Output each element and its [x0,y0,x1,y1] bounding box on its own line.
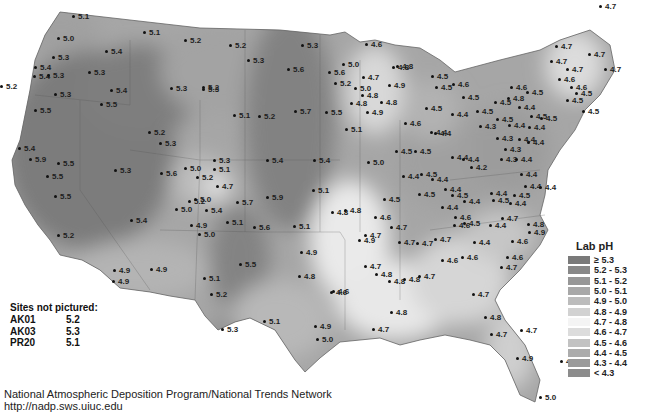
legend-swatch [568,359,590,367]
legend-label: 4.4 - 4.5 [594,348,627,358]
site-marker: 4.4 [434,130,451,138]
site-dot-icon [527,141,530,144]
site-dot-icon [365,43,368,46]
site-dot-icon [54,195,57,198]
site-ph-value: 4.6 [517,237,528,246]
site-ph-value: 4.5 [441,83,452,92]
site-ph-value: 4.7 [610,65,621,74]
site-ph-value: 5.9 [35,155,46,164]
site-marker: 4.5 [425,105,442,113]
legend-swatch [568,297,590,305]
site-marker: 5.3 [114,167,131,175]
site-marker: 4.9 [314,323,331,331]
site-marker: 4.7 [434,236,451,244]
site-marker: 5.3 [47,72,64,80]
site-ph-value: 4.4 [457,110,468,119]
site-ph-value: 5.4 [211,206,222,215]
site-ph-value: 5.4 [111,47,122,56]
site-dot-icon [170,87,173,90]
site-ph-value: 5.4 [24,144,35,153]
site-dot-icon [526,91,529,94]
site-marker: 4.4 [518,104,535,112]
legend-label: 4.9 - 5.0 [594,296,627,306]
site-dot-icon [258,115,261,118]
site-marker: 4.4 [489,222,506,230]
site-dot-icon [332,290,335,293]
site-dot-icon [431,75,434,78]
site-dot-icon [34,66,37,69]
sites-not-pictured-header: Sites not pictured: [10,302,98,313]
site-marker: 5.3 [170,85,187,93]
site-dot-icon [375,273,378,276]
site-ph-value: 5.5 [331,108,342,117]
site-dot-icon [462,158,465,161]
site-dot-icon [33,75,36,78]
site-dot-icon [294,110,297,113]
site-dot-icon [253,226,256,229]
site-ph-value: 4.5 [546,114,557,123]
site-dot-icon [418,193,421,196]
site-ph-value: 5.1 [239,111,250,120]
legend-item: 4.6 - 4.7 [568,327,648,337]
site-marker: 4.9 [190,222,207,230]
site-dot-icon [555,45,558,48]
site-dot-icon [72,15,75,18]
site-marker: 4.3 [479,123,496,131]
site-marker: 5.0 [57,35,74,43]
legend-item: 4.9 - 5.0 [568,296,648,306]
site-ph-value: 4.5 [532,88,543,97]
site-ph-value: 4.7 [378,325,389,334]
site-dot-icon [462,96,465,99]
site-marker: 4.6 [404,120,421,128]
site-ph-value: 5.1 [318,186,329,195]
site-dot-icon [540,117,543,120]
site-dot-icon [451,194,454,197]
site-marker: 4.8 [396,63,413,71]
site-marker: 5.1 [312,187,329,195]
site-dot-icon [539,186,542,189]
site-marker: 5.4 [313,157,330,165]
site-marker: 4.9 [388,82,405,90]
site-marker: 4.5 [476,108,493,116]
site-ph-value: 4.3 [510,145,521,154]
site-ph-value: 4.5 [431,104,442,113]
site-ph-value: 5.0 [373,158,384,167]
site-marker: 5.4 [266,157,283,165]
site-dot-icon [404,122,407,125]
legend-swatch [568,328,590,336]
site-dot-icon [175,208,178,211]
site-dot-icon [506,256,509,259]
site-dot-icon [530,115,533,118]
site-ph-value: 5.0 [200,195,211,204]
site-marker: 5.5 [325,109,342,117]
site-ph-value: 5.1 [351,125,362,134]
site-dot-icon [287,68,290,71]
site-dot-icon [57,162,60,165]
site-dot-icon [184,167,187,170]
site-marker: 4.9 [516,355,533,363]
site-dot-icon [472,293,475,296]
site-marker: 5.7 [236,199,253,207]
site-marker: 5.2 [229,42,246,50]
site-dot-icon [398,241,401,244]
site-ph-value: 5.5 [40,106,51,115]
site-ph-value: 5.2 [208,83,219,92]
site-marker: 5.2 [0,83,17,91]
legend-item: 5.0 - 5.1 [568,286,648,296]
site-marker: 5.9 [266,194,283,202]
site-ph-value: 4.8 [350,206,361,215]
site-dot-icon [390,311,393,314]
site-marker: 4.9 [150,266,167,274]
site-marker: 5.4 [205,207,222,215]
site-marker: 4.6 [332,288,349,296]
site-marker: 4.7 [550,58,567,66]
site-dot-icon [194,198,197,201]
legend-swatch [568,266,590,274]
site-marker: 4.5 [414,148,431,156]
legend-swatch [568,287,590,295]
site-ph-value: 4.9 [118,277,129,286]
site-dot-icon [196,176,199,179]
site-marker: 4.5 [492,197,509,205]
site-dot-icon [524,185,527,188]
site-ph-value: 4.5 [498,196,509,205]
